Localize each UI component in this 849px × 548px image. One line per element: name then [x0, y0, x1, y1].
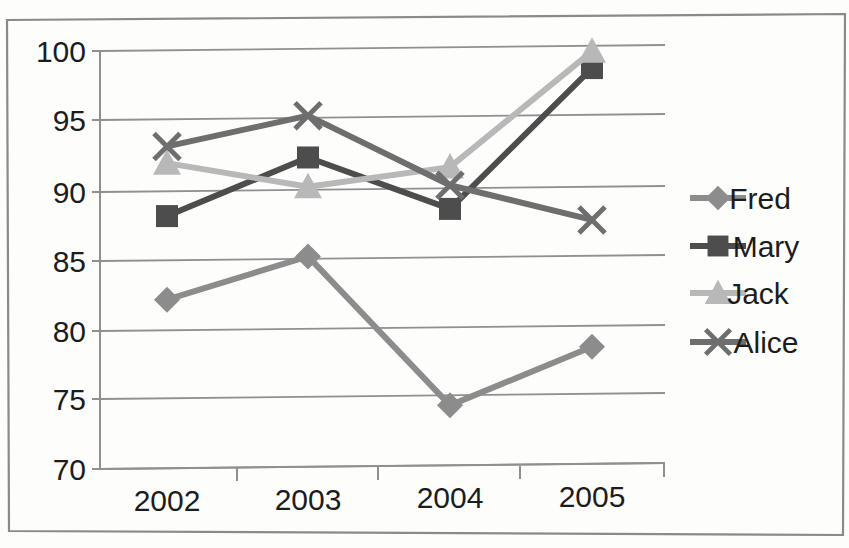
- x-tick-label-2005: 2005: [559, 480, 626, 513]
- legend-glyph-diamond-icon: [706, 186, 731, 211]
- legend-glyph-square-icon: [708, 236, 729, 257]
- x-tick-label-2002: 2002: [134, 484, 201, 517]
- chart-container: 100 95 90 85 80 75 70 2002 2003 2004 200…: [0, 0, 849, 548]
- gridline-80: [100, 325, 665, 331]
- series-mary: [156, 57, 603, 227]
- y-tick-label-95: 95: [53, 104, 86, 137]
- y-tick-label-90: 90: [53, 176, 86, 209]
- data-point-mary-2004: [439, 198, 461, 220]
- gridline-75: [100, 393, 665, 399]
- data-point-mary-2003: [297, 146, 319, 168]
- data-point-fred-2005: [579, 334, 605, 360]
- legend-label-alice: Alice: [733, 326, 798, 359]
- series-fred: [154, 243, 605, 418]
- y-tick-label-100: 100: [36, 35, 86, 68]
- x-axis: [100, 463, 665, 481]
- x-axis-line: [100, 463, 665, 469]
- line-chart: 100 95 90 85 80 75 70 2002 2003 2004 200…: [0, 0, 849, 548]
- legend-label-mary: Mary: [733, 230, 800, 263]
- gridlines: [100, 45, 665, 469]
- legend-label-fred: Fred: [729, 182, 791, 215]
- series-line-fred: [167, 256, 592, 405]
- y-tick-label-70: 70: [53, 453, 86, 486]
- gridline-100: [100, 45, 665, 51]
- gridline-85: [100, 255, 665, 261]
- y-tick-labels: 100 95 90 85 80 75 70: [36, 35, 86, 486]
- chart-frame: [7, 14, 845, 535]
- y-tick-label-75: 75: [53, 383, 86, 416]
- gridline-95: [100, 114, 665, 120]
- x-tick-labels: 2002 2003 2004 2005: [134, 480, 626, 517]
- data-point-fred-2002: [154, 287, 180, 313]
- data-point-jack-2005: [578, 37, 606, 62]
- y-tick-label-80: 80: [53, 315, 86, 348]
- series-layer: [153, 37, 606, 418]
- legend-label-jack: Jack: [727, 277, 790, 310]
- data-point-mary-2002: [156, 205, 178, 227]
- y-tick-label-85: 85: [53, 245, 86, 278]
- x-tick-label-2003: 2003: [275, 483, 342, 516]
- legend: Fred Mary Jack Alice: [690, 182, 799, 359]
- series-line-mary: [167, 68, 592, 216]
- y-axis: [92, 51, 100, 469]
- x-tick-label-2004: 2004: [417, 481, 484, 514]
